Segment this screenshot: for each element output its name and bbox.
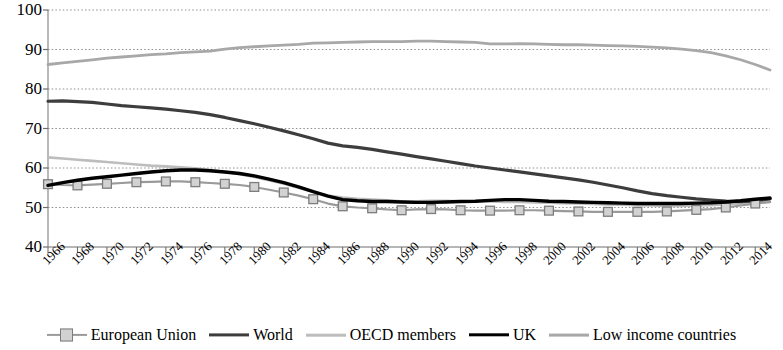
series-marker xyxy=(604,207,613,216)
series-line xyxy=(48,101,770,202)
legend-swatch-icon xyxy=(306,328,346,342)
series-marker xyxy=(721,203,730,212)
series-marker xyxy=(103,179,112,188)
series-marker xyxy=(250,183,259,192)
legend-item[interactable]: OECD members xyxy=(306,326,456,344)
series-marker xyxy=(545,206,554,215)
legend-label: European Union xyxy=(91,326,196,344)
series-marker xyxy=(368,204,377,213)
legend-item[interactable]: Low income countries xyxy=(549,326,736,344)
series-marker xyxy=(397,206,406,215)
series-marker xyxy=(338,202,347,211)
legend-label: Low income countries xyxy=(593,326,736,344)
line-chart-plot xyxy=(0,0,783,350)
legend-item[interactable]: World xyxy=(209,326,293,344)
series-marker xyxy=(191,178,200,187)
series-marker xyxy=(633,207,642,216)
series-marker xyxy=(279,188,288,197)
series-marker xyxy=(132,178,141,187)
series-marker xyxy=(574,207,583,216)
series-marker xyxy=(515,206,524,215)
legend-label: OECD members xyxy=(350,326,456,344)
y-axis-tick-label: 90 xyxy=(0,41,42,58)
legend-swatch-icon xyxy=(469,328,509,342)
series-marker xyxy=(486,206,495,215)
y-axis-tick-label: 100 xyxy=(0,1,42,18)
y-axis-tick-label: 50 xyxy=(0,199,42,216)
y-axis-tick-label: 70 xyxy=(0,120,42,137)
legend-swatch-icon xyxy=(209,328,249,342)
legend-swatch-icon xyxy=(549,328,589,342)
legend-swatch-icon xyxy=(47,328,87,342)
series-line xyxy=(48,170,770,204)
series-marker xyxy=(220,179,229,188)
legend-label: UK xyxy=(513,326,536,344)
series-marker xyxy=(692,205,701,214)
legend-item[interactable]: UK xyxy=(469,326,536,344)
legend-label: World xyxy=(253,326,293,344)
series-marker xyxy=(427,205,436,214)
series-line xyxy=(48,41,770,70)
chart-container: 405060708090100 196619681970197219741976… xyxy=(0,0,783,350)
y-axis-tick-label: 40 xyxy=(0,238,42,255)
chart-legend: European UnionWorldOECD membersUKLow inc… xyxy=(0,322,783,348)
series-marker xyxy=(161,177,170,186)
series-marker xyxy=(309,195,318,204)
y-axis-tick-label: 60 xyxy=(0,159,42,176)
series-marker xyxy=(662,207,671,216)
legend-item[interactable]: European Union xyxy=(47,326,196,344)
y-axis-tick-label: 80 xyxy=(0,80,42,97)
series-marker xyxy=(456,206,465,215)
